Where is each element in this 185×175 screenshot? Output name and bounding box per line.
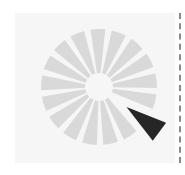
spinner-segments [41,29,157,145]
dashed-divider [179,13,181,163]
loading-spinner-icon [0,0,185,175]
spinner-segment [112,89,157,109]
spinner-active-segment [127,107,167,141]
